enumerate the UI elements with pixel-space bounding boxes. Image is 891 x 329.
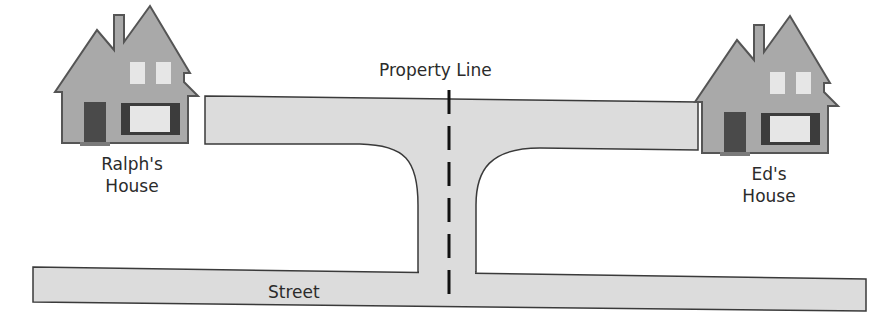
ed-house-icon (695, 16, 838, 156)
picture-window (770, 116, 810, 142)
ralph-house-label-line1: Ralph's (72, 153, 192, 175)
window-upper-right (156, 62, 171, 84)
shared-driveway (205, 96, 698, 272)
street-label: Street (268, 281, 320, 303)
driveway-street-join (419, 266, 475, 276)
doorstep (720, 152, 750, 156)
property-line-label: Property Line (379, 59, 492, 81)
door (724, 112, 746, 152)
window-upper-left (130, 62, 145, 84)
picture-window (130, 106, 170, 132)
window-upper-left (770, 72, 785, 94)
doorstep (80, 142, 110, 146)
door (84, 102, 106, 142)
ed-house-label-line2: House (709, 185, 829, 207)
ed-house-label-line1: Ed's (709, 163, 829, 185)
ed-house-label: Ed's House (709, 163, 829, 207)
ralph-house-label-line2: House (72, 175, 192, 197)
window-upper-right (796, 72, 811, 94)
ralph-house-label: Ralph's House (72, 153, 192, 197)
ralph-house-icon (55, 6, 198, 146)
